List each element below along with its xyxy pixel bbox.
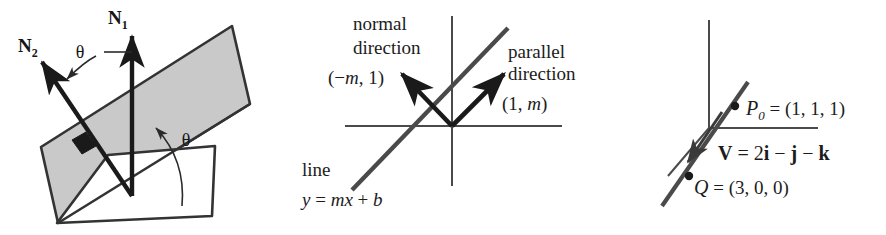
vector-V-equals: = <box>732 142 753 164</box>
vector-V-minus-1: − <box>769 142 790 164</box>
parallel-direction-arrow <box>452 74 504 126</box>
normal-vector-open: (− <box>328 67 345 89</box>
parallel-vector-label: (1, m) <box>502 93 547 115</box>
parallel-vector-open: (1, <box>502 93 527 115</box>
line-equation-mx: mx <box>331 189 354 210</box>
point-P0-label: P0 = (1, 1, 1) <box>745 97 845 123</box>
normal-2-letter: N <box>18 35 32 56</box>
vector-V-coef-2: 2 <box>754 142 764 164</box>
panel-two-planes: θ N1 N2 θ <box>0 0 295 235</box>
normal-vector-m: m <box>345 67 359 88</box>
normal-vector-label: (−m, 1) <box>328 67 384 89</box>
theta-normals-label: θ <box>76 42 85 62</box>
point-P0-dot <box>731 102 739 110</box>
normal-2-label: N2 <box>18 35 38 60</box>
theta-planes-label: θ <box>182 130 191 150</box>
parallel-direction-label-line1: parallel <box>508 41 565 62</box>
point-Q-letter: Q <box>694 176 709 198</box>
parallel-direction-label-line2: direction <box>508 63 576 84</box>
parallel-vector-close: ) <box>541 93 547 115</box>
vector-V-minus-2: − <box>797 142 818 164</box>
normal-1-subscript: 1 <box>122 18 128 32</box>
point-P0-letter: P <box>745 97 758 119</box>
normal-1-letter: N <box>108 7 122 28</box>
line-equation-y: y <box>300 189 311 210</box>
vector-V-letter: V <box>718 142 733 164</box>
normal-direction-arrow <box>402 74 452 126</box>
point-Q-label: Q = (3, 0, 0) <box>694 176 789 199</box>
line-label: line <box>302 159 331 180</box>
parallel-vector-m: m <box>527 93 541 114</box>
point-P0-value: = (1, 1, 1) <box>765 98 845 120</box>
panel-line-3d: P0 = (1, 1, 1) V = 2i − j − k Q = (3, 0,… <box>590 0 886 235</box>
vector-V-k: k <box>819 142 831 164</box>
figure-strip: θ N1 N2 θ <box>0 0 886 235</box>
vector-V-label: V = 2i − j − k <box>718 142 831 165</box>
line-equation-label: y = mx + b <box>300 189 383 210</box>
panel-line-directions: normal direction (−m, 1) parallel direct… <box>290 0 590 235</box>
normal-direction-label-line2: direction <box>353 37 421 58</box>
line-equation-plus: + <box>353 189 373 210</box>
line-equation-eq: = <box>310 189 330 210</box>
line-equation-b: b <box>373 189 383 210</box>
vector-V-j: j <box>790 142 798 165</box>
direction-vector-V <box>688 112 722 162</box>
normal-2-subscript: 2 <box>32 46 38 60</box>
normal-vector-close: , 1) <box>359 67 384 89</box>
normal-direction-label-line1: normal <box>353 13 407 34</box>
normal-1-label: N1 <box>108 7 128 32</box>
point-Q-dot <box>685 172 693 180</box>
point-Q-value: = (3, 0, 0) <box>708 177 788 199</box>
